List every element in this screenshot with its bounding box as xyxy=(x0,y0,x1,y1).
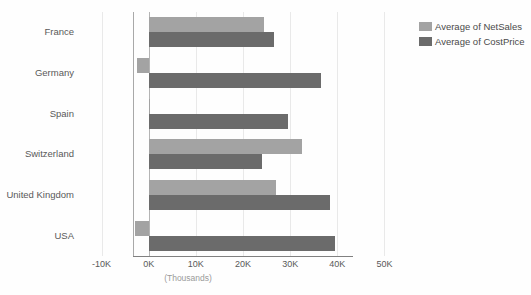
bar xyxy=(149,32,274,47)
x-axis-title: (Thousands) xyxy=(78,273,298,283)
x-axis-labels: -10K0K10K20K30K40K50K xyxy=(78,259,408,273)
bar-group xyxy=(78,12,408,53)
bar-group xyxy=(78,53,408,94)
chart-legend: Average of NetSalesAverage of CostPrice xyxy=(419,20,531,50)
bar-group xyxy=(78,175,408,216)
bar xyxy=(149,180,276,195)
legend-item[interactable]: Average of NetSales xyxy=(419,20,531,33)
bar xyxy=(137,58,149,73)
y-axis-labels: FranceGermanySpainSwitzerlandUnited King… xyxy=(0,12,74,256)
bar xyxy=(149,236,335,251)
x-tick-label: 50K xyxy=(376,259,392,269)
bar-chart: FranceGermanySpainSwitzerlandUnited King… xyxy=(0,0,531,295)
legend-label: Average of CostPrice xyxy=(435,36,525,47)
y-tick-label: United Kingdom xyxy=(2,189,74,200)
legend-swatch-icon xyxy=(419,37,432,46)
bar-group xyxy=(78,134,408,175)
plot-area xyxy=(78,12,408,256)
x-tick-label: 20K xyxy=(235,259,251,269)
x-tick-label: 0K xyxy=(143,259,154,269)
x-tick-label: 10K xyxy=(188,259,204,269)
legend-item[interactable]: Average of CostPrice xyxy=(419,35,531,48)
y-tick-label: Spain xyxy=(2,108,74,119)
x-tick-label: 30K xyxy=(282,259,298,269)
bar xyxy=(149,17,265,32)
bar xyxy=(149,195,331,210)
legend-swatch-icon xyxy=(419,22,432,31)
y-tick-label: France xyxy=(2,26,74,37)
x-tick-label: -10K xyxy=(92,259,111,269)
y-tick-label: Germany xyxy=(2,67,74,78)
y-tick-label: USA xyxy=(2,230,74,241)
bar xyxy=(149,154,262,169)
bar xyxy=(149,114,288,129)
bar xyxy=(149,139,302,154)
bar-group xyxy=(78,93,408,134)
x-tick-label: 40K xyxy=(329,259,345,269)
bar xyxy=(149,73,321,88)
x-axis-line xyxy=(133,256,353,257)
y-tick-label: Switzerland xyxy=(2,148,74,159)
bar xyxy=(149,99,150,114)
bar-group xyxy=(78,215,408,256)
legend-label: Average of NetSales xyxy=(435,21,522,32)
bar xyxy=(135,221,149,236)
